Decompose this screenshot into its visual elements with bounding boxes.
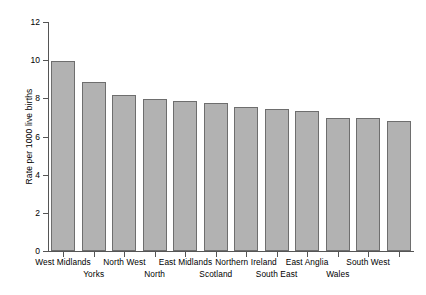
y-axis-tick-label: 12 xyxy=(14,17,40,27)
x-axis-label: South East xyxy=(256,269,298,279)
x-axis-label: North xyxy=(144,269,165,279)
y-axis-tick xyxy=(43,137,48,138)
y-axis-tick xyxy=(43,22,48,23)
y-axis-tick xyxy=(43,251,48,252)
y-axis-tick xyxy=(43,98,48,99)
y-axis-tick xyxy=(43,213,48,214)
bar xyxy=(265,109,289,251)
bar xyxy=(295,111,319,251)
bar xyxy=(112,95,136,251)
x-axis-tick xyxy=(155,252,156,257)
bar xyxy=(143,99,167,251)
x-axis-tick xyxy=(94,252,95,257)
y-axis-tick-label: 0 xyxy=(14,246,40,256)
x-axis-label: East Anglia xyxy=(286,257,329,267)
y-axis-tick-label: 6 xyxy=(14,131,40,141)
bar xyxy=(387,121,411,251)
bar xyxy=(204,103,228,251)
x-axis-label: Yorks xyxy=(83,269,104,279)
y-axis-tick-label: 8 xyxy=(14,93,40,103)
bar xyxy=(82,82,106,251)
bar xyxy=(173,101,197,251)
y-axis-tick xyxy=(43,60,48,61)
x-axis-label: North West xyxy=(103,257,145,267)
x-axis-label: East Midlands xyxy=(159,257,212,267)
y-axis-tick-label: 2 xyxy=(14,207,40,217)
x-axis-label: Scotland xyxy=(199,269,232,279)
x-axis-label: Northern Ireland xyxy=(215,257,277,267)
x-axis-line xyxy=(48,251,414,252)
y-axis-tick xyxy=(43,175,48,176)
y-axis-tick-label: 4 xyxy=(14,169,40,179)
x-axis-tick xyxy=(399,252,400,257)
x-axis-label: West Midlands xyxy=(35,257,91,267)
bar xyxy=(234,107,258,251)
x-axis-label: South West xyxy=(346,257,390,267)
x-axis-label: Wales xyxy=(326,269,349,279)
y-axis-tick-label: 10 xyxy=(14,55,40,65)
bar-chart: Rate per 1000 live births 024681012 West… xyxy=(0,0,426,295)
bar xyxy=(51,61,75,251)
y-axis-line xyxy=(48,22,49,252)
x-axis-tick xyxy=(338,252,339,257)
bar xyxy=(356,118,380,251)
bar xyxy=(326,118,350,251)
